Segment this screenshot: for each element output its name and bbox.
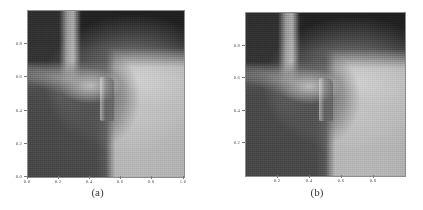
figure-panel-a: 0.0 0.2 0.4 0.6 0.8 1.0 0.0 0.2 0.4 0.6 … (0, 0, 211, 210)
y-tick-label-b-0: 0.2 (226, 140, 240, 145)
y-tick-b-0 (242, 142, 245, 143)
y-tick-a-0 (24, 176, 27, 177)
two-panel-figure: 0.0 0.2 0.4 0.6 0.8 1.0 0.0 0.2 0.4 0.6 … (0, 0, 423, 210)
y-tick-label-a-1: 0.2 (8, 141, 22, 146)
x-tick-label-b-2: 0.6 (338, 178, 344, 183)
y-tick-a-3 (24, 76, 27, 77)
x-tick-label-a-1: 0.2 (55, 179, 61, 184)
x-tick-label-b-1: 0.4 (306, 178, 312, 183)
raster-noise-overlay-b (246, 13, 405, 176)
x-tick-label-b-0: 0.2 (274, 178, 280, 183)
plot-area-b (245, 12, 406, 177)
plot-area-a (27, 10, 185, 178)
y-tick-b-3 (242, 45, 245, 46)
x-tick-label-a-4: 0.8 (148, 179, 154, 184)
y-tick-b-2 (242, 77, 245, 78)
x-tick-label-a-5: 1.0 (180, 179, 186, 184)
panel-caption-a: (a) (0, 186, 203, 198)
y-tick-label-b-2: 0.6 (226, 75, 240, 80)
panel-caption-b: (b) (211, 186, 423, 198)
y-tick-label-a-4: 0.8 (8, 41, 22, 46)
x-tick-label-a-2: 0.4 (86, 179, 92, 184)
figure-panel-b: 0.2 0.4 0.6 0.8 0.2 0.4 0.6 0.8 (b) (211, 0, 423, 210)
y-tick-label-a-3: 0.6 (8, 74, 22, 79)
y-tick-label-b-3: 0.8 (226, 43, 240, 48)
y-tick-a-2 (24, 110, 27, 111)
y-tick-label-a-0: 0.0 (8, 174, 22, 179)
y-tick-a-4 (24, 43, 27, 44)
y-tick-b-1 (242, 110, 245, 111)
raster-noise-overlay-a (28, 11, 184, 177)
y-tick-label-b-1: 0.4 (226, 108, 240, 113)
x-tick-label-b-3: 0.8 (370, 178, 376, 183)
y-tick-label-a-2: 0.4 (8, 108, 22, 113)
y-tick-a-1 (24, 143, 27, 144)
x-tick-label-a-0: 0.0 (24, 179, 30, 184)
x-tick-label-a-3: 0.6 (117, 179, 123, 184)
